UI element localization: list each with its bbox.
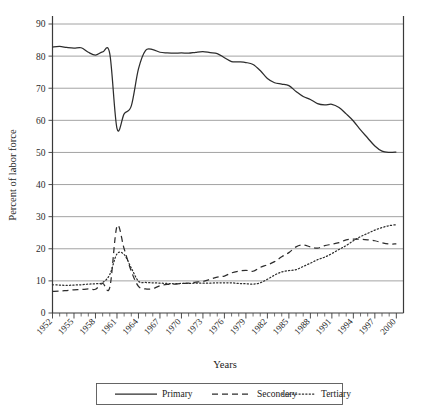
y-axis-tick-label: 90 <box>36 19 46 29</box>
y-axis-ticks-group: 0102030405060708090 <box>36 19 53 318</box>
y-axis-title: Percent of labor force <box>7 129 18 221</box>
legend: PrimarySecondaryTertiary <box>97 384 352 405</box>
x-axis-tick-label: 1967 <box>142 316 162 336</box>
x-axis-tick-label: 1952 <box>34 317 54 337</box>
x-axis-tick-label: 1985 <box>271 316 291 336</box>
x-axis-tick-label: 1976 <box>206 316 226 336</box>
x-axis-tick-label: 1997 <box>357 316 377 336</box>
y-axis-tick-label: 60 <box>36 116 46 126</box>
x-axis-tick-label: 1955 <box>56 316 76 336</box>
legend-label-tertiary: Tertiary <box>321 389 351 399</box>
x-axis-tick-label: 2000 <box>378 316 398 336</box>
x-axis-tick-label: 1964 <box>120 316 140 336</box>
data-series-group <box>53 46 397 291</box>
y-axis-tick-label: 50 <box>36 148 46 158</box>
x-axis-ticks-group: 1952195519581961196419671970197319761979… <box>34 313 398 337</box>
x-axis-tick-label: 1958 <box>77 316 97 336</box>
x-axis-tick-label: 1973 <box>185 316 205 336</box>
y-axis-tick-label: 30 <box>36 212 46 222</box>
series-line-primary <box>53 46 397 152</box>
x-axis-tick-label: 1970 <box>163 316 183 336</box>
legend-label-primary: Primary <box>162 389 193 399</box>
x-axis-tick-label: 1979 <box>228 316 248 336</box>
x-axis-tick-label: 1988 <box>292 316 312 336</box>
x-axis-tick-label: 1961 <box>99 317 119 337</box>
y-axis-tick-label: 80 <box>36 52 46 62</box>
y-axis-tick-label: 40 <box>36 180 46 190</box>
legend-label-secondary: Secondary <box>257 389 297 399</box>
x-axis-tick-label: 1982 <box>249 317 269 337</box>
line-chart: 0102030405060708090 19521955195819611964… <box>0 0 422 415</box>
y-axis-tick-label: 70 <box>36 84 46 94</box>
y-axis-tick-label: 10 <box>36 276 46 286</box>
x-axis-title: Years <box>213 359 236 370</box>
y-axis-tick-label: 20 <box>36 244 46 254</box>
x-axis-tick-label: 1994 <box>335 316 355 336</box>
x-axis-tick-label: 1991 <box>314 317 334 337</box>
chart-container: 0102030405060708090 19521955195819611964… <box>0 0 422 415</box>
